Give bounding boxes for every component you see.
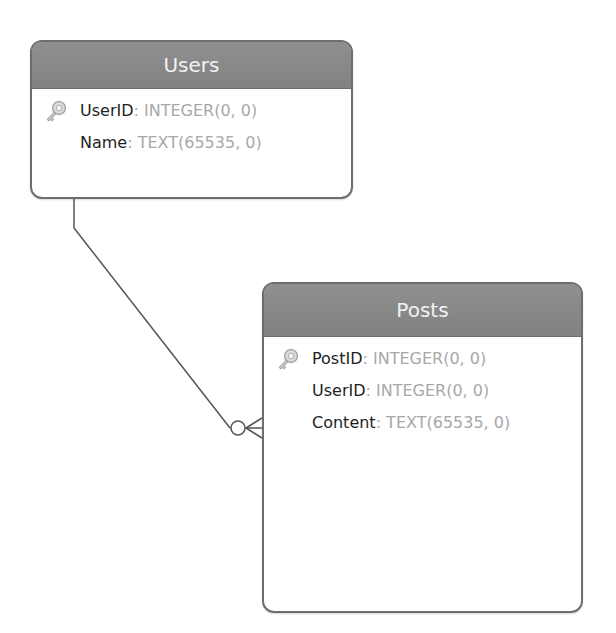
entity-posts[interactable]: Posts PostID: INTEGER(0, 0) UserID: INTE… (262, 282, 583, 613)
key-icon (44, 100, 68, 122)
field-name: UserID (312, 381, 366, 400)
field-row[interactable]: Content: TEXT(65535, 0) (264, 407, 581, 439)
entity-title: Users (32, 42, 351, 89)
entity-users[interactable]: Users UserID: INTEGER(0, 0) Name: TEXT(6… (30, 40, 353, 199)
field-type: : INTEGER(0, 0) (366, 381, 490, 400)
key-icon (276, 348, 300, 370)
field-type: : TEXT(65535, 0) (376, 413, 511, 432)
field-type: : TEXT(65535, 0) (127, 133, 262, 152)
field-row[interactable]: Name: TEXT(65535, 0) (32, 127, 351, 159)
relationship-line (74, 198, 230, 428)
field-row[interactable]: UserID: INTEGER(0, 0) (32, 95, 351, 127)
field-name: PostID (312, 349, 363, 368)
entity-title: Posts (264, 284, 581, 337)
zero-cardinality-icon (231, 421, 245, 435)
field-row[interactable]: PostID: INTEGER(0, 0) (264, 343, 581, 375)
field-row[interactable]: UserID: INTEGER(0, 0) (264, 375, 581, 407)
field-name: Content (312, 413, 376, 432)
field-type: : INTEGER(0, 0) (134, 101, 258, 120)
crows-foot-upper (246, 418, 262, 428)
crows-foot-lower (246, 428, 262, 438)
field-name: Name (80, 133, 127, 152)
field-type: : INTEGER(0, 0) (363, 349, 487, 368)
field-name: UserID (80, 101, 134, 120)
